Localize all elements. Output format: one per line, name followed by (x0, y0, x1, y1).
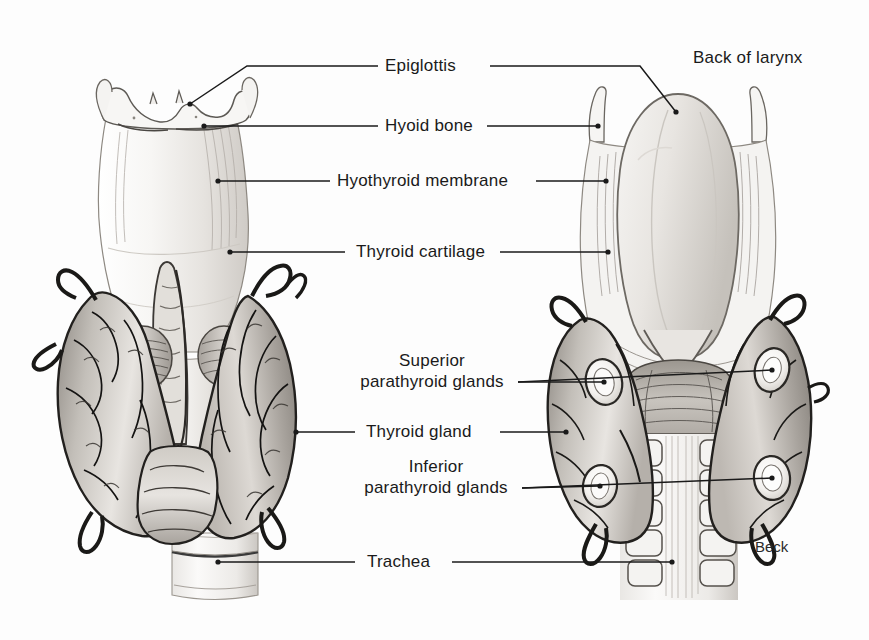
leader-epiglottis-right (490, 66, 676, 112)
posterior-view-drawing (548, 87, 829, 600)
artist-signature: Beck (755, 538, 788, 555)
thyroid-isthmus (138, 446, 218, 544)
label-back-of-larynx: Back of larynx (693, 47, 803, 68)
label-superior-parathyroid-line2: parathyroid glands (352, 371, 512, 392)
label-superior-parathyroid-line1: Superior (352, 350, 512, 371)
anterior-view-drawing (34, 78, 306, 600)
label-inferior-parathyroid-line1: Inferior (356, 456, 516, 477)
anatomy-illustration (0, 0, 869, 640)
label-inferior-parathyroid-glands: Inferior parathyroid glands (356, 456, 516, 498)
leader-epiglottis-left (190, 66, 378, 104)
label-inferior-parathyroid-line2: parathyroid glands (356, 477, 516, 498)
hyoid-bone (97, 78, 258, 131)
label-thyroid-cartilage: Thyroid cartilage (356, 241, 485, 262)
label-epiglottis: Epiglottis (385, 55, 456, 76)
label-trachea: Trachea (367, 551, 430, 572)
label-hyothyroid-membrane: Hyothyroid membrane (337, 170, 508, 191)
label-superior-parathyroid-glands: Superior parathyroid glands (352, 350, 512, 392)
illustration-canvas: Epiglottis Hyoid bone Hyothyroid membran… (0, 0, 869, 640)
label-hyoid-bone: Hyoid bone (385, 115, 473, 136)
label-thyroid-gland: Thyroid gland (366, 421, 472, 442)
